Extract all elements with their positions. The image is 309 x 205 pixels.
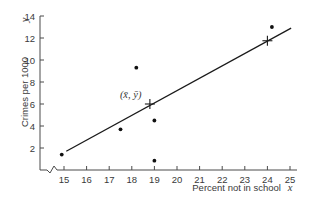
- data-point-3: [153, 119, 157, 123]
- x-axis-title: Percent not in school: [192, 182, 281, 193]
- data-point-0: [60, 153, 64, 157]
- data-point-1: [119, 127, 123, 131]
- regression-line: [66, 28, 291, 151]
- data-point-5: [270, 25, 274, 29]
- y-tick-label: 8: [30, 77, 35, 88]
- x-tick-label: 17: [104, 174, 115, 185]
- x-tick-label: 15: [59, 174, 70, 185]
- x-tick-label: 18: [127, 174, 138, 185]
- y-axis-title: Crimes per 1000: [19, 57, 30, 127]
- scatter-chart: 24681012141516171819202122232425 (x̄, ȳ)…: [0, 0, 309, 205]
- data-point-2: [134, 66, 138, 70]
- ticks: 24681012141516171819202122232425: [24, 11, 295, 186]
- x-tick-label: 19: [149, 174, 160, 185]
- x-tick-label: 16: [81, 174, 92, 185]
- x-axis-variable: x: [287, 182, 293, 193]
- series: (x̄, ȳ): [60, 25, 291, 162]
- y-axis-variable: y: [19, 17, 30, 23]
- y-tick-label: 2: [30, 143, 35, 154]
- predicted-point-marker: [262, 36, 272, 46]
- mean-point-label: (x̄, ȳ): [120, 89, 142, 101]
- y-tick-label: 12: [24, 33, 35, 44]
- y-tick-label: 4: [30, 121, 35, 132]
- x-axis-line: [40, 166, 297, 173]
- x-tick-label: 20: [172, 174, 183, 185]
- y-tick-label: 6: [30, 99, 35, 110]
- data-point-4: [153, 159, 157, 163]
- axes: [40, 16, 297, 173]
